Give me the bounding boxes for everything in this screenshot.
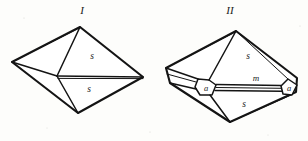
figure-1-girdle-edge-upper [57,76,143,77]
figure-2-body-fill [166,31,297,122]
figure-2-group: II s m a a s [166,4,297,122]
figure-2-face-label-m: m [253,73,260,83]
figure-1-group: I s s [12,4,143,113]
figure-2-girdle-rail-bottom [215,91,282,92]
speck-icon [299,25,300,26]
speck-icon [47,128,48,129]
figure-1-roman-label: I [79,4,85,16]
figure-1-face-label-s-lower: s [87,84,91,94]
speck-icon [149,131,150,132]
figure-2-face-label-a-left: a [204,83,208,93]
figure-2-face-label-s-lower: s [242,99,246,109]
figure-2-face-label-s-upper: s [246,51,250,61]
speck-icon [268,135,269,136]
figure-2-roman-label: II [225,4,235,16]
figures-canvas: I s s [0,0,308,141]
crystal-figure-plate: I s s [0,0,308,141]
figure-1-face-label-s-upper: s [90,51,94,61]
speck-icon [23,17,24,18]
figure-1-body-fill [12,27,143,113]
figure-2-girdle-rail-top [216,85,281,86]
figure-2-face-label-a-right: a [287,83,291,93]
